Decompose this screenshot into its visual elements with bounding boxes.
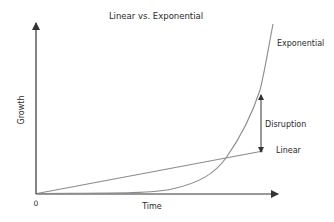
exponential-curve (37, 24, 273, 194)
linear-label: Linear (276, 146, 302, 155)
x-axis-label: Time (141, 202, 162, 211)
linear-line (37, 151, 263, 194)
disruption-label: Disruption (265, 120, 306, 129)
chart-title: Linear vs. Exponential (109, 11, 203, 21)
exponential-label: Exponential (277, 39, 324, 48)
origin-label: 0 (34, 199, 39, 208)
y-axis-label: Growth (17, 96, 26, 125)
chart: Linear vs. Exponential Growth Time 0 Lin… (0, 0, 334, 222)
